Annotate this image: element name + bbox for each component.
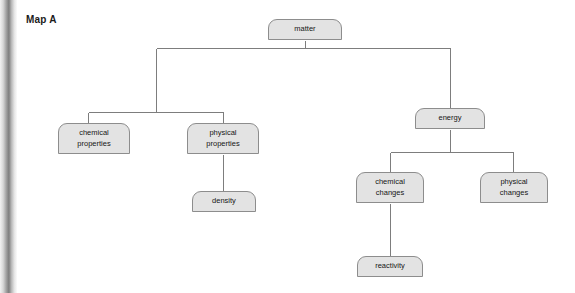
node-density[interactable]: density <box>192 191 256 212</box>
node-physical-properties[interactable]: physical properties <box>187 123 259 154</box>
node-matter[interactable]: matter <box>268 19 342 40</box>
node-energy[interactable]: energy <box>415 108 485 129</box>
concept-map-canvas: Map A matter chemical properties <box>0 0 575 293</box>
node-matter-label: matter <box>294 24 315 34</box>
node-physical-changes[interactable]: physical changes <box>480 172 548 203</box>
node-energy-label: energy <box>439 113 462 123</box>
node-chemical-properties-label: chemical properties <box>77 128 110 148</box>
node-reactivity[interactable]: reactivity <box>357 256 423 277</box>
node-chemical-changes[interactable]: chemical changes <box>356 172 424 203</box>
node-reactivity-label: reactivity <box>375 261 405 271</box>
node-density-label: density <box>212 196 236 206</box>
node-physical-changes-label: physical changes <box>500 177 528 197</box>
node-physical-properties-label: physical properties <box>206 128 239 148</box>
node-chemical-changes-label: chemical changes <box>375 177 405 197</box>
node-chemical-properties[interactable]: chemical properties <box>58 123 130 154</box>
